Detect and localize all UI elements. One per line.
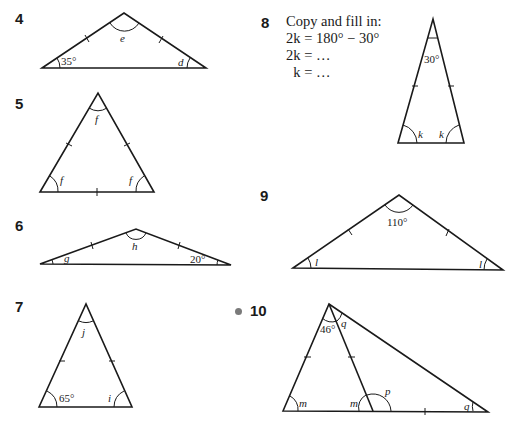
q4-angle-base-right: d [178, 56, 184, 68]
q8-angle-apex: 30° [424, 53, 439, 65]
triangle-q5 [40, 93, 154, 196]
q9-angle-base-right: l [479, 258, 482, 270]
q8-angle-base-right: k [439, 128, 445, 140]
triangle-q7 [39, 304, 132, 407]
triangle-q8 [398, 19, 464, 143]
q10-angle-exterior: p [384, 385, 391, 397]
q10-angle-inner-base: m [350, 397, 358, 409]
triangle-q9 [293, 195, 503, 270]
q10-angle-base-left: m [299, 397, 307, 409]
q7-angle-base-right: i [108, 392, 111, 404]
q5-angle-apex: f [95, 113, 100, 125]
q5-angle-base-left: f [60, 174, 65, 186]
q7-angle-base-left: 65° [59, 392, 74, 404]
q5-angle-base-right: f [129, 174, 134, 186]
q4-angle-apex: e [120, 32, 125, 44]
q10-angle-apex-left: 46° [320, 323, 335, 335]
q6-angle-base-right: 20° [190, 253, 205, 265]
q9-angle-base-left: l [315, 256, 318, 268]
q8-angle-base-left: k [418, 128, 424, 140]
q10-angle-apex-right: q [341, 317, 347, 329]
q7-angle-apex: j [80, 326, 85, 338]
triangle-q10 [283, 304, 488, 415]
triangle-diagrams: e 35° d f f f h g 20° j 65° i 30° k k 11… [0, 0, 514, 423]
q6-angle-apex: h [132, 240, 138, 252]
q9-angle-apex: 110° [387, 216, 408, 228]
q10-angle-base-right: q [464, 400, 470, 412]
q6-angle-base-left: g [64, 252, 70, 264]
q4-angle-base-left: 35° [61, 55, 76, 67]
